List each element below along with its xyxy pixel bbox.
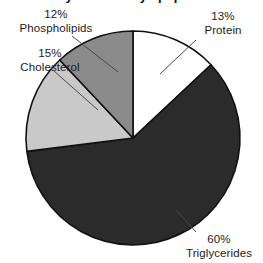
- pie-chart-figure: Very low density lipoprotein 12% Phospho…: [0, 0, 263, 263]
- slice-percent-protein: 13%: [192, 10, 254, 24]
- slice-label-triglycerides: 60% Triglycerides: [176, 233, 262, 260]
- slice-percent-triglycerides: 60%: [176, 233, 262, 247]
- slice-label-cholesterol: 15% Cholesterol: [4, 47, 96, 74]
- slice-name-phospholipids: Phospholipids: [8, 22, 104, 36]
- slice-percent-phospholipids: 12%: [8, 8, 104, 22]
- slice-name-triglycerides: Triglycerides: [176, 247, 262, 261]
- pie-chart-canvas: [0, 0, 263, 263]
- slice-label-protein: 13% Protein: [192, 10, 254, 37]
- slice-percent-cholesterol: 15%: [4, 47, 96, 61]
- slice-label-phospholipids: 12% Phospholipids: [8, 8, 104, 35]
- slice-name-protein: Protein: [192, 24, 254, 38]
- slice-name-cholesterol: Cholesterol: [4, 61, 96, 75]
